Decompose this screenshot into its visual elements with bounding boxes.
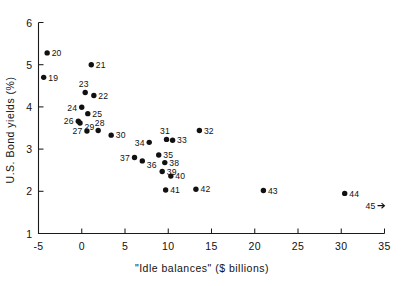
point-label: 23 [79,79,89,89]
data-point: 30 [108,130,125,140]
x-tick-labels: -505101520253035 [33,240,390,252]
y-tick-label: 3 [26,143,32,155]
point-marker [79,105,84,110]
point-marker [164,137,169,142]
point-marker [261,188,266,193]
y-tick-label: 2 [26,185,32,197]
point-label: 26 [64,116,74,126]
point-label: 28 [95,118,105,128]
point-marker [170,138,175,143]
data-point: 31 [160,126,170,142]
point-marker [197,128,202,133]
point-marker [91,93,96,98]
data-point: 45 [366,201,385,211]
data-point: 21 [89,60,106,70]
x-tick-label: 30 [335,240,347,252]
point-marker [95,128,100,133]
data-point: 24 [67,103,84,113]
data-point: 42 [193,184,210,194]
data-point: 19 [41,73,58,83]
point-label: 40 [175,171,185,181]
point-label: 22 [98,91,108,101]
point-label: 43 [268,186,278,196]
data-point: 43 [261,186,278,196]
point-label: 32 [204,126,214,136]
point-label: 45 [366,201,376,211]
point-label: 29 [85,122,95,132]
point-label: 44 [349,189,359,199]
data-point: 33 [170,135,187,145]
point-marker [85,111,90,116]
y-tick-labels: 123456 [26,17,32,240]
point-marker [132,155,137,160]
point-marker [156,152,161,157]
x-tick-label: 25 [292,240,304,252]
off-scale-arrow-icon [378,203,385,208]
point-label: 27 [72,126,82,136]
x-tick-label: 5 [122,240,128,252]
y-tick-label: 6 [26,17,32,29]
data-point: 41 [163,185,180,195]
x-axis-title: "Idle balances" ($ billions) [135,262,269,274]
y-tick-label: 4 [26,101,32,113]
x-tick-label: 15 [205,240,217,252]
data-point: 39 [159,167,176,177]
point-label: 41 [170,185,180,195]
x-tick-label: 35 [378,240,390,252]
data-point: 36 [140,158,157,170]
x-tick-label: 10 [162,240,174,252]
data-point: 20 [44,48,61,58]
point-label: 30 [116,130,126,140]
point-label: 19 [48,73,58,83]
point-label: 37 [120,153,130,163]
point-marker [140,158,145,163]
point-label: 24 [67,103,77,113]
point-marker [168,173,173,178]
point-label: 34 [135,138,145,148]
y-axis-title: U.S. Bond yields (%) [4,77,16,184]
point-label: 31 [160,126,170,136]
plot-canvas: -505101520253035 123456 1920212223242526… [0,0,404,286]
data-point: 37 [120,153,137,163]
data-point: 28 [95,118,105,134]
point-marker [41,75,46,80]
point-label: 33 [177,135,187,145]
point-label: 21 [96,60,106,70]
point-label: 42 [200,184,210,194]
point-marker [147,140,152,145]
point-marker [44,50,49,55]
point-label: 20 [52,48,62,58]
point-marker [77,120,82,125]
point-marker [163,187,168,192]
point-marker [83,90,88,95]
data-point: 23 [79,79,89,95]
point-marker [159,169,164,174]
data-point: 22 [91,91,108,101]
point-label: 36 [147,160,157,170]
data-point: 44 [342,189,359,199]
point-marker [108,132,113,137]
point-marker [162,160,167,165]
x-tick-label: -5 [33,240,43,252]
point-marker [342,191,347,196]
point-marker [89,62,94,67]
scatter-plot-figure: -505101520253035 123456 1920212223242526… [0,0,404,286]
data-point: 32 [197,126,214,136]
data-point: 34 [135,138,152,148]
point-marker [193,186,198,191]
y-tick-label: 1 [26,228,32,240]
y-tick-label: 5 [26,59,32,71]
data-points: 1920212223242526272829303132333435363738… [41,48,385,211]
x-tick-label: 20 [249,240,261,252]
x-tick-label: 0 [79,240,85,252]
